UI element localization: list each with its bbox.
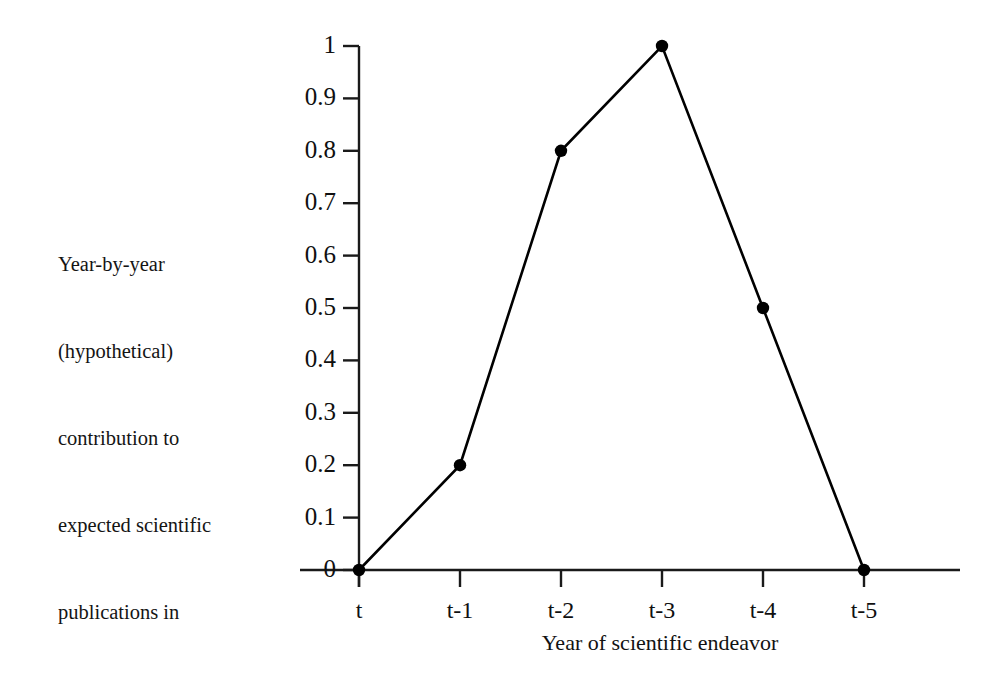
x-tick-label-t-3: t-3: [617, 597, 707, 623]
x-tick-label-t-1: t-1: [415, 597, 505, 623]
x-tick-label-t-2: t-2: [516, 597, 606, 623]
x-axis-title: Year of scientific endeavor: [360, 630, 960, 656]
chart-figure: Year-by-year (hypothetical) contribution…: [0, 0, 1005, 691]
x-tick-label-t-4: t-4: [718, 597, 808, 623]
x-tick-label-t-5: t-5: [819, 597, 909, 623]
x-axis-labels: tt-1t-2t-3t-4t-5: [0, 0, 1005, 691]
x-tick-label-t: t: [314, 597, 404, 623]
